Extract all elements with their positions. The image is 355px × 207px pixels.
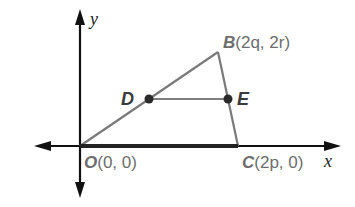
point-d-dot [145, 95, 154, 104]
point-b-coords: (2q, 2r) [235, 33, 290, 52]
point-c-label: C(2p, 0) [242, 154, 303, 171]
triangle-diagram: y x B(2q, 2r) D E O(0, 0) C(2p, 0) [0, 0, 355, 207]
point-e-label: E [237, 90, 249, 108]
point-b-label: B(2q, 2r) [223, 34, 290, 51]
y-axis-label: y [90, 10, 98, 28]
y-axis-down-arrow-icon [75, 182, 85, 198]
point-c-coords: (2p, 0) [254, 153, 303, 172]
point-o-coords: (0, 0) [97, 153, 137, 172]
x-axis-left-arrow-icon [34, 141, 51, 151]
point-d-label: D [121, 90, 134, 108]
point-e-dot [224, 95, 233, 104]
x-axis-right-arrow-icon [324, 141, 341, 151]
y-axis-up-arrow-icon [75, 9, 85, 25]
point-c-name: C [242, 153, 254, 172]
point-o-label: O(0, 0) [84, 154, 137, 171]
x-axis-label: x [324, 152, 332, 170]
point-o-name: O [84, 153, 97, 172]
diagram-canvas [0, 0, 355, 207]
point-b-name: B [223, 33, 235, 52]
